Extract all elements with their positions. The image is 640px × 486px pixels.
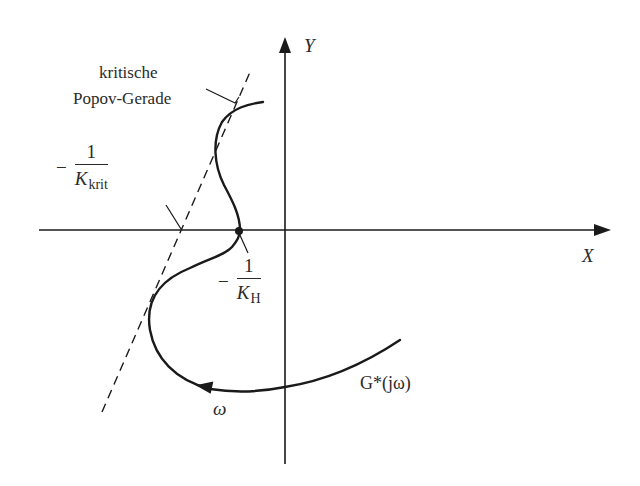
k-krit-fraction: 1 Kkrit [75,142,108,192]
popov-label-line1: kritische [99,64,158,81]
k-h-leader [239,233,248,253]
k-h-fraction: 1 KH [237,256,261,306]
popov-diagram: Y X kritische Popov-Gerade − 1 Kkrit − 1… [0,0,640,486]
curve-label: G*(jω) [360,374,411,392]
k-krit-numerator: 1 [75,142,108,164]
y-axis-label: Y [304,36,315,55]
popov-line [102,72,250,412]
y-axis-arrow-icon [279,37,291,53]
nyquist-curve [149,102,400,391]
popov-label-leader [206,89,239,103]
k-h-denominator: KH [237,279,261,306]
x-axis-arrow-icon [594,224,611,236]
popov-label-line2: Popov-Gerade [73,90,171,107]
k-krit-leader [166,205,181,229]
direction-arrow-icon [195,381,214,395]
k-h-sign: − [218,272,229,291]
x-axis-label: X [582,246,594,265]
k-krit-label: − 1 Kkrit [56,142,108,192]
k-h-point [235,227,243,235]
k-h-label: − 1 KH [218,256,261,306]
k-h-numerator: 1 [237,256,261,278]
omega-label: ω [213,399,226,418]
k-krit-denominator: Kkrit [75,165,108,192]
k-krit-sign: − [56,158,67,177]
diagram-canvas [0,0,640,486]
